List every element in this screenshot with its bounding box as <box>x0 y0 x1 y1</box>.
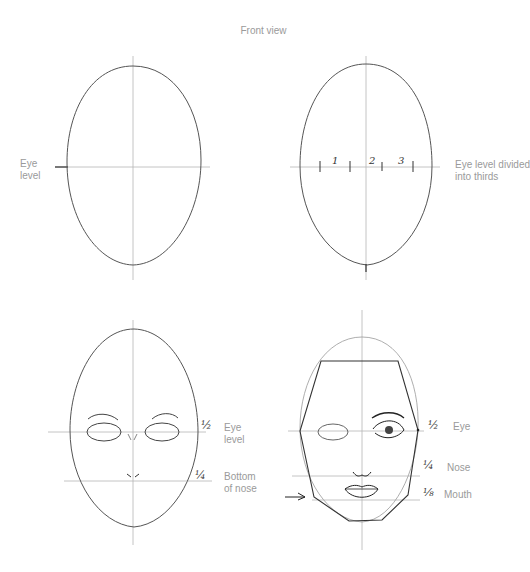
nose-fraction-right: ¼ <box>423 460 434 472</box>
head-outline-top-left <box>55 56 210 280</box>
eye-fraction-right: ½ <box>428 420 439 432</box>
bottom-of-nose-label: Bottom of nose <box>224 471 257 495</box>
nose-label-right: Nose <box>447 462 470 474</box>
eye-label-right: Eye <box>453 421 470 433</box>
head-outline-top-right <box>290 56 440 280</box>
third-1: 1 <box>332 155 338 166</box>
mouth-fraction-right: ⅛ <box>423 487 434 499</box>
eye-level-label: Eye level <box>20 158 41 182</box>
head-outline-bottom-right <box>285 310 424 550</box>
third-2: 2 <box>368 155 375 166</box>
mouth-label-right: Mouth <box>444 489 472 501</box>
eye-level-thirds-label: Eye level divided into thirds <box>455 159 530 183</box>
eye-fraction: ½ <box>201 420 212 432</box>
head-outline-bottom-left <box>48 320 212 545</box>
third-3: 3 <box>398 155 404 166</box>
nose-fraction: ¼ <box>195 470 206 482</box>
eye-level-label-bottom: Eye level <box>224 422 245 446</box>
